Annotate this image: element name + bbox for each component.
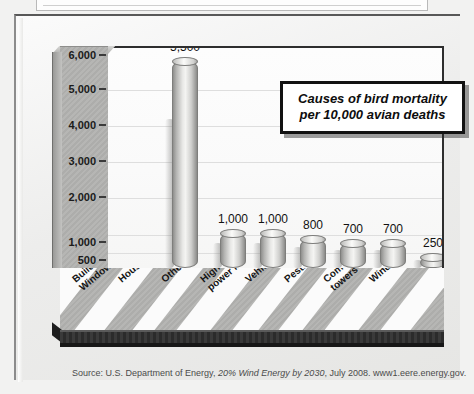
y-axis-tick-label: 500 [78, 254, 96, 266]
y-axis-tick-mark [99, 124, 106, 126]
y-axis-tick-mark [99, 160, 106, 162]
source-prefix: Source: U.S. Department of Energy, [72, 368, 218, 378]
bar-cap [300, 235, 326, 244]
bar-1: 1,000 [220, 233, 246, 268]
bar-value-label: 700 [343, 222, 363, 236]
y-axis-tick-label: 5,000 [68, 83, 96, 95]
bar-4: 700 [340, 243, 366, 268]
chart-title-callout: Causes of bird mortality per 10,000 avia… [280, 81, 465, 134]
screenshot-root: 5,5001,0001,0008007007002500.75 6,0005,0… [0, 0, 474, 394]
bar-5: 700 [380, 243, 406, 268]
bar-0: 5,500 [172, 61, 198, 268]
gridline [108, 198, 442, 199]
plot-area: 5,5001,0001,0008007007002500.75 [108, 46, 444, 268]
page-top-artifact [36, 0, 428, 11]
bar-cap [260, 229, 286, 238]
y-axis-tick-mark [99, 54, 106, 56]
base-slab-front-edge [60, 343, 444, 347]
y-axis-tick-1: 5,000 [68, 83, 106, 95]
category-label-band: Buildings/WindowsHouse catsOtherHigh-ten… [60, 268, 444, 330]
y-axis-tick-6: 500 [78, 254, 106, 266]
y-axis-tick-mark [99, 259, 106, 261]
bar-cap [380, 239, 406, 248]
y-axis-tick-2: 4,000 [68, 119, 106, 131]
bar-body [220, 233, 246, 268]
y-axis-tick-0: 6,000 [68, 49, 106, 61]
y-axis-tick-label: 3,000 [68, 155, 96, 167]
bar-cap [172, 57, 198, 66]
y-axis-tick-3: 3,000 [68, 155, 106, 167]
y-axis-tick-label: 1,000 [68, 236, 96, 248]
chart-title-line-2: per 10,000 avian deaths [291, 107, 454, 123]
chart-stage: 5,5001,0001,0008007007002500.75 6,0005,0… [52, 38, 450, 338]
y-axis-tick-mark [99, 196, 106, 198]
y-axis-tick-label: 2,000 [68, 191, 96, 203]
gridline [108, 162, 442, 163]
bar-2: 1,000 [260, 233, 286, 268]
bar-cap [220, 229, 246, 238]
bar-3: 800 [300, 239, 326, 268]
y-axis-tick-5: 1,000 [68, 236, 106, 248]
y-axis-tick-mark [99, 241, 106, 243]
y-axis-tick-label: 4,000 [68, 119, 96, 131]
bar-value-label: 700 [383, 222, 403, 236]
y-axis-tick-label: 6,000 [68, 49, 96, 61]
figure-card: 5,5001,0001,0008007007002500.75 6,0005,0… [14, 14, 460, 380]
bar-body [172, 61, 198, 268]
bar-body [260, 233, 286, 268]
chart-title-line-1: Causes of bird mortality [291, 91, 454, 107]
bar-value-label: 250 [423, 236, 443, 250]
bar-value-label: 5,500 [170, 46, 200, 54]
source-note: Source: U.S. Department of Energy, 20% W… [72, 368, 466, 378]
source-suffix: , July 2008. www1.eere.energy.gov. [324, 368, 466, 378]
axis-wall-side-face [52, 52, 62, 268]
bar-value-label: 1,000 [258, 212, 288, 226]
bar-cap [340, 239, 366, 248]
bar-6: 250 [420, 257, 444, 268]
y-axis-tick-mark [99, 88, 106, 90]
axis-wall: 6,0005,0004,0003,0002,0001,0005000 [60, 46, 108, 268]
bar-cap [420, 253, 444, 262]
source-title-italic: 20% Wind Energy by 2030 [218, 368, 324, 378]
y-axis-tick-4: 2,000 [68, 191, 106, 203]
bar-value-label: 1,000 [218, 212, 248, 226]
bar-value-label: 800 [303, 218, 323, 232]
